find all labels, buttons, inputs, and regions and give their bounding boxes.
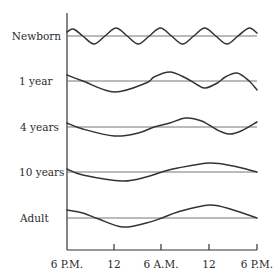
x-tick-label: 6 P.M. <box>241 258 273 270</box>
x-tick-label: 12 <box>202 258 215 270</box>
baselines <box>67 36 257 218</box>
x-tick-label: 6 P.M. <box>51 258 83 270</box>
rhythm-curves <box>67 28 257 227</box>
row-label-10-years: 10 years <box>19 166 65 178</box>
x-ticks <box>114 244 257 250</box>
x-tick-labels: 6 P.M. 12 6 A.M. 12 6 P.M. <box>51 258 273 270</box>
row-label-1-year: 1 year <box>19 75 53 87</box>
row-label-newborn: Newborn <box>12 30 61 42</box>
x-tick-label: 12 <box>107 258 120 270</box>
curve-adult <box>67 205 257 227</box>
row-label-4-years: 4 years <box>20 121 59 133</box>
curve-1-year <box>67 72 257 92</box>
sleep-wake-rhythm-chart: 6 P.M. 12 6 A.M. 12 6 P.M. Newborn 1 yea… <box>0 0 280 279</box>
x-tick-label: 6 A.M. <box>143 258 178 270</box>
row-label-adult: Adult <box>19 212 49 224</box>
row-labels: Newborn 1 year 4 years 10 years Adult <box>12 30 65 224</box>
